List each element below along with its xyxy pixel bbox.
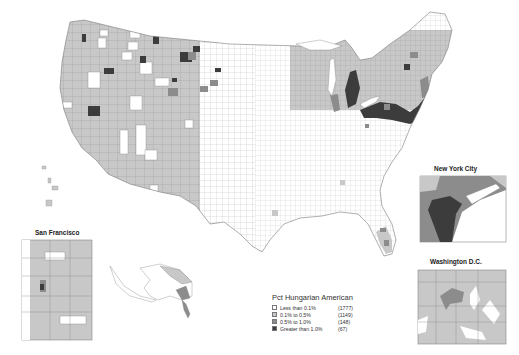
legend-label: 0.1% to 0.5%: [280, 312, 338, 318]
choropleth-map: [0, 0, 519, 355]
legend-count: (1777): [338, 305, 368, 311]
swatch-white: [272, 305, 277, 310]
legend-title: Pct Hungarian American: [272, 293, 392, 302]
inset-title-new-york-city: New York City: [434, 165, 477, 172]
swatch-mid-gray: [272, 319, 277, 324]
legend-count: (67): [338, 326, 368, 332]
legend-row-greater-than-1-0: Greater than 1.0% (67): [272, 325, 392, 332]
alaska: [110, 264, 192, 318]
legend-label: 0.5% to 1.0%: [280, 319, 338, 325]
legend-count: (148): [338, 319, 368, 325]
swatch-light-gray: [272, 312, 277, 317]
inset-san-francisco: [22, 240, 92, 340]
legend-row-less-than-0-1: Less than 0.1% (1777): [272, 304, 392, 311]
inset-title-washington-dc: Washington D.C.: [430, 258, 482, 265]
inset-washington-dc: [418, 270, 506, 344]
legend-count: (1149): [338, 312, 368, 318]
channel-islands: [42, 166, 58, 206]
inset-title-san-francisco: San Francisco: [35, 229, 79, 236]
legend-row-0-5-to-1-0: 0.5% to 1.0% (148): [272, 318, 392, 325]
legend-label: Greater than 1.0%: [280, 326, 338, 332]
swatch-dark-gray: [272, 326, 277, 331]
legend-row-0-1-to-0-5: 0.1% to 0.5% (1149): [272, 311, 392, 318]
legend-label: Less than 0.1%: [280, 305, 338, 311]
legend: Pct Hungarian American Less than 0.1% (1…: [272, 293, 392, 332]
contiguous-us: [40, 0, 455, 260]
inset-new-york-city: [420, 176, 506, 242]
